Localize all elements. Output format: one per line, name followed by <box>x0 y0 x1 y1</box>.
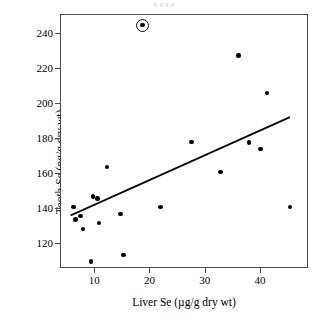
y-axis-tick-label: 160 <box>37 167 54 178</box>
y-axis-tick <box>55 138 61 139</box>
x-axis-tick-label: 20 <box>144 275 155 286</box>
regression-line <box>61 15 307 267</box>
y-axis-tick <box>55 208 61 209</box>
data-point <box>121 253 126 258</box>
y-axis-tick <box>55 173 61 174</box>
data-point <box>89 259 94 264</box>
x-axis-tick <box>260 267 261 273</box>
data-point <box>158 205 163 210</box>
y-axis-tick-label: 200 <box>37 97 54 108</box>
data-point <box>95 196 100 201</box>
y-axis-tick <box>55 103 61 104</box>
x-axis-tick <box>94 267 95 273</box>
data-point <box>189 140 194 145</box>
y-axis-tick <box>55 68 61 69</box>
y-axis-tick-label: 220 <box>37 62 54 73</box>
data-point <box>78 214 83 219</box>
clipped-caption-fragment: p g g p <box>0 0 329 8</box>
outlier-highlight-ring <box>136 19 149 32</box>
y-axis-tick <box>55 243 61 244</box>
x-axis-tick <box>149 267 150 273</box>
data-point <box>71 205 76 210</box>
y-axis-tick-label: 240 <box>37 27 54 38</box>
plot-area <box>61 15 307 267</box>
x-axis-tick-label: 30 <box>199 275 210 286</box>
scatter-plot-figure: p g g p Tooth Se (ng/g dry wt) 120140160… <box>0 0 329 323</box>
y-axis-tick-label: 140 <box>37 202 54 213</box>
x-axis-label: Liver Se (µg/g dry wt) <box>60 296 308 309</box>
y-axis-tick <box>55 33 61 34</box>
plot-frame: 12014016018020022024010203040 <box>60 14 308 268</box>
x-axis-tick <box>205 267 206 273</box>
y-axis-tick-label: 180 <box>37 132 54 143</box>
data-point <box>236 53 241 58</box>
x-axis-tick-label: 10 <box>89 275 100 286</box>
x-axis-tick-label: 40 <box>255 275 266 286</box>
data-point <box>258 147 263 152</box>
y-axis-tick-label: 120 <box>37 237 54 248</box>
data-point <box>73 217 78 222</box>
